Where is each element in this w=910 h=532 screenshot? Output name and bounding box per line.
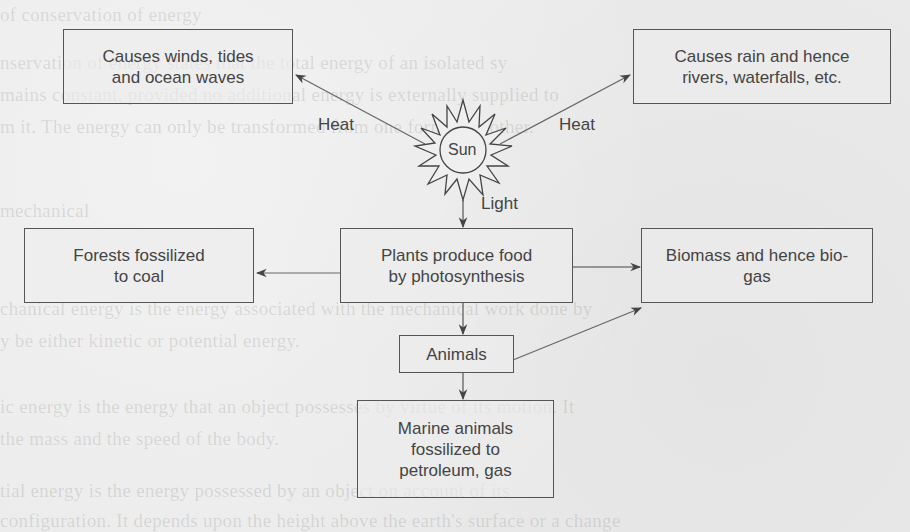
arrow-sun-to-winds (296, 75, 425, 144)
edge-label-heat-right: Heat (559, 115, 595, 135)
node-marine-to-petroleum: Marine animals fossilized to petroleum, … (357, 400, 554, 498)
node-biomass-biogas: Biomass and hence bio- gas (641, 228, 873, 303)
arrow-animals-to-biomass (513, 308, 641, 360)
node-forests-to-coal: Forests fossilized to coal (24, 228, 254, 303)
edge-label-light: Light (481, 194, 518, 214)
node-plants-photosynthesis: Plants produce food by photosynthesis (340, 228, 573, 303)
sun-label: Sun (448, 141, 476, 159)
edge-label-heat-left: Heat (318, 115, 354, 135)
node-winds-tides-waves: Causes winds, tides and ocean waves (63, 29, 293, 104)
node-rain-rivers-waterfalls: Causes rain and hence rivers, waterfalls… (633, 29, 891, 104)
node-animals: Animals (399, 335, 514, 373)
